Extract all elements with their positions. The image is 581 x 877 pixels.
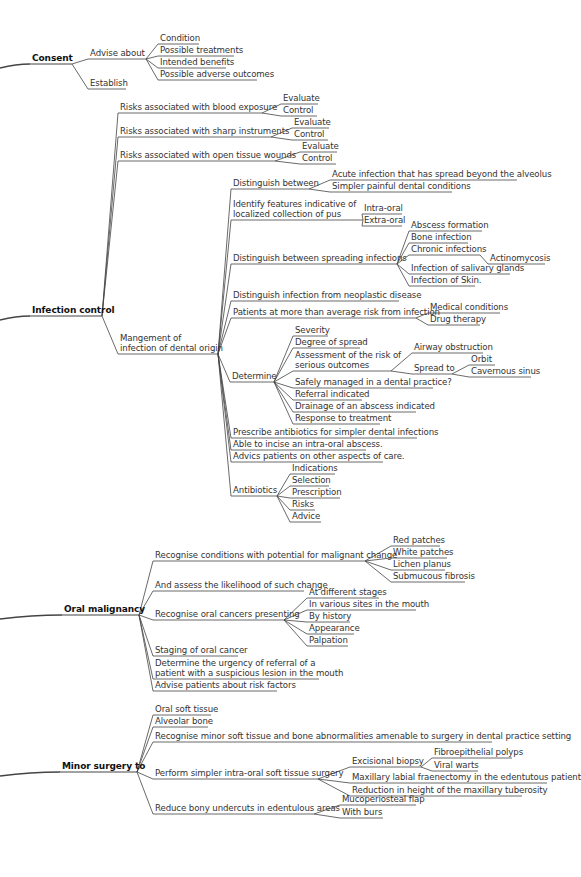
node-label: Simpler painful dental conditions <box>332 181 471 191</box>
node-label: Risks associated with open tissue wounds <box>120 150 296 160</box>
node-label: Risks <box>292 499 314 509</box>
node-label: Mucoperiosteal flap <box>342 794 425 804</box>
node-incise: Able to incise an intra-oral abscess. <box>233 439 383 449</box>
node-recogcan: Recognise oral cancers presenting <box>155 609 300 619</box>
node-open_e: Evaluate <box>302 141 339 151</box>
node-label: Maxillary labial fraenectomy in the eden… <box>352 772 581 782</box>
node-label: Prescribe antibiotics for simpler dental… <box>233 427 438 437</box>
node-label: Distinguish between spreading infections <box>233 253 407 263</box>
node-recog: Recognise conditions with potential for … <box>155 550 397 560</box>
node-white: White patches <box>393 547 453 557</box>
node-label: Advise patients about risk factors <box>155 680 296 690</box>
node-label: Risks associated with sharp instruments <box>120 126 289 136</box>
node-label: Degree of spread <box>295 337 368 347</box>
node-label: Medical conditions <box>430 302 508 312</box>
node-label: Control <box>294 129 324 139</box>
node-label: Recognise oral cancers presenting <box>155 609 300 619</box>
node-label: Advise about <box>90 48 145 58</box>
node-label: Safely managed in a dental practice? <box>295 377 452 387</box>
node-label: Determine the urgency of referral of a <box>155 658 343 668</box>
node-urgency: Determine the urgency of referral of apa… <box>155 658 343 678</box>
node-label: Prescription <box>292 487 342 497</box>
node-label: Perform simpler intra-oral soft tissue s… <box>155 768 344 778</box>
node-spread: Distinguish between spreading infections <box>233 253 407 263</box>
node-label: Appearance <box>309 623 360 633</box>
node-hist: By history <box>309 611 351 621</box>
node-sev: Severity <box>295 325 330 335</box>
node-risk: Patients at more than average risk from … <box>233 307 440 317</box>
node-label: Assessment of the risk of <box>295 350 401 360</box>
node-label: serious outcomes <box>295 360 401 370</box>
node-label: Drug therapy <box>430 314 486 324</box>
node-resp: Response to treatment <box>295 413 391 423</box>
node-blood_c: Control <box>283 105 313 115</box>
node-label: Able to incise an intra-oral abscess. <box>233 439 383 449</box>
node-undercut: Reduce bony undercuts in edentulous area… <box>155 803 340 813</box>
node-label: Mangement of <box>120 333 223 343</box>
node-label: Infection of salivary glands <box>411 263 524 273</box>
node-label: Infection of Skin. <box>411 275 481 285</box>
node-drain: Drainage of an abscess indicated <box>295 401 435 411</box>
node-label: Oral malignancy <box>64 604 145 614</box>
node-neo: Distinguish infection from neoplastic di… <box>233 290 421 300</box>
node-adv: Possible adverse outcomes <box>160 69 274 79</box>
node-label: Extra-oral <box>364 215 405 225</box>
node-advice_c: Advics patients on other aspects of care… <box>233 451 405 461</box>
node-deg: Degree of spread <box>295 337 368 347</box>
node-label: Determine <box>232 371 277 381</box>
node-maxlab: Maxillary labial fraenectomy in the eden… <box>352 772 581 782</box>
node-perf: Perform simpler intra-oral soft tissue s… <box>155 768 344 778</box>
node-drug: Drug therapy <box>430 314 486 324</box>
node-label: Oral soft tissue <box>155 704 218 714</box>
root-node-ic: Infection control <box>32 305 114 315</box>
node-label: Actinomycosis <box>490 253 550 263</box>
node-acute: Acute infection that has spread beyond t… <box>332 169 552 179</box>
node-label: Possible adverse outcomes <box>160 69 274 79</box>
node-palp: Palpation <box>309 635 348 645</box>
node-label: Staging of oral cancer <box>155 645 248 655</box>
node-assess: Assessment of the risk ofserious outcome… <box>295 350 401 370</box>
node-label: Intra-oral <box>364 203 403 213</box>
node-skin: Infection of Skin. <box>411 275 481 285</box>
node-extra: Extra-oral <box>364 215 405 225</box>
node-med: Medical conditions <box>430 302 508 312</box>
node-sites: In various sites in the mouth <box>309 599 429 609</box>
node-label: Control <box>283 105 313 115</box>
node-presc: Prescribe antibiotics for simpler dental… <box>233 427 438 437</box>
node-warts: Viral warts <box>434 760 479 770</box>
node-label: Airway obstruction <box>414 342 493 352</box>
node-label: Establish <box>90 78 128 88</box>
node-ident: Identify features indicative oflocalized… <box>233 199 356 219</box>
node-label: Condition <box>160 33 200 43</box>
node-determ: Determine <box>232 371 277 381</box>
node-red: Red patches <box>393 535 445 545</box>
node-ost: Oral soft tissue <box>155 704 218 714</box>
node-label: Fibroepithelial polyps <box>434 747 523 757</box>
node-label: Orbit <box>471 354 492 364</box>
node-submuc: Submucous fibrosis <box>393 571 475 581</box>
node-establish: Establish <box>90 78 128 88</box>
node-label: Distinguish between <box>233 178 319 188</box>
node-label: Palpation <box>309 635 348 645</box>
node-label: Recognise minor soft tissue and bone abn… <box>155 731 571 741</box>
node-blood_e: Evaluate <box>283 93 320 103</box>
node-label: Risks associated with blood exposure <box>120 102 277 112</box>
node-pres2: Prescription <box>292 487 342 497</box>
node-label: Possible treatments <box>160 45 243 55</box>
node-label: Consent <box>32 53 73 63</box>
node-recmin: Recognise minor soft tissue and bone abn… <box>155 731 571 741</box>
node-advi: Advice <box>292 511 320 521</box>
node-intra: Intra-oral <box>364 203 403 213</box>
root-node-consent: Consent <box>32 53 73 63</box>
node-label: Evaluate <box>294 117 331 127</box>
node-refer: Referral indicated <box>295 389 369 399</box>
node-label: Chronic infections <box>411 244 486 254</box>
node-sel: Selection <box>292 475 331 485</box>
node-staging: Staging of oral cancer <box>155 645 248 655</box>
root-node-ms: Minor surgery to <box>62 761 145 771</box>
node-label: Selection <box>292 475 331 485</box>
node-label: Evaluate <box>302 141 339 151</box>
node-safe: Safely managed in a dental practice? <box>295 377 452 387</box>
node-airway: Airway obstruction <box>414 342 493 352</box>
